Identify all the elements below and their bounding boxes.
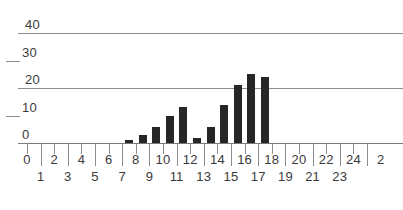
- bar-chart: 403020100 012345678910111213141516171819…: [0, 0, 403, 210]
- x-axis-label-clipped: 2: [361, 153, 401, 166]
- x-axis: 0123456789101112131415161718192021222324…: [0, 0, 403, 210]
- chart-clip: 403020100 012345678910111213141516171819…: [0, 0, 403, 210]
- x-axis-label-23: 23: [320, 170, 360, 183]
